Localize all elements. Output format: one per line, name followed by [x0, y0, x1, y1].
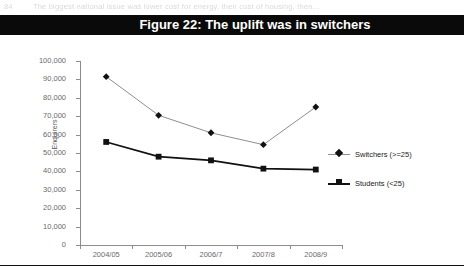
page-number: 84: [4, 2, 13, 11]
figure-title-band: Figure 22: The uplift was in switchers: [0, 15, 464, 35]
diamond-marker-icon: [335, 149, 343, 157]
data-point-square: [208, 157, 214, 163]
data-point-diamond: [260, 141, 267, 148]
series-line-2: [106, 142, 316, 170]
square-marker-icon: [336, 179, 342, 185]
data-point-diamond: [312, 104, 319, 111]
data-point-square: [156, 154, 162, 160]
data-point-diamond: [208, 129, 215, 136]
legend-item-switchers: Switchers (>=25): [328, 148, 458, 161]
figure-container: Figure 22: The uplift was in switchers E…: [0, 15, 464, 266]
data-point-square: [313, 167, 319, 173]
data-point-square: [261, 166, 267, 172]
line-chart: Enquirers 100,00090,00080,00070,00060,00…: [0, 35, 464, 266]
figure-title: Figure 22: The uplift was in switchers: [0, 15, 464, 35]
chart-legend: Switchers (>=25) Students (<25): [328, 148, 458, 206]
legend-label-switchers: Switchers (>=25): [355, 148, 412, 161]
legend-label-students: Students (<25): [355, 177, 404, 190]
running-header-text: The biggest national issue was lower cos…: [33, 2, 320, 11]
page-running-header: 84 The biggest national issue was lower …: [0, 0, 464, 14]
data-point-diamond: [155, 112, 162, 119]
plot-frame: Enquirers 100,00090,00080,00070,00060,00…: [0, 35, 464, 266]
data-point-square: [103, 139, 109, 145]
legend-item-students: Students (<25): [328, 177, 458, 190]
data-point-diamond: [103, 73, 110, 80]
